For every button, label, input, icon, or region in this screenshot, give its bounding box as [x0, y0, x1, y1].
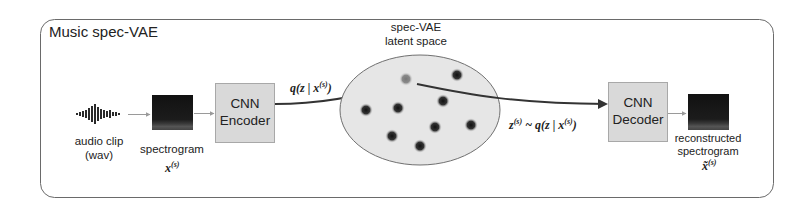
latent-point: [464, 118, 478, 132]
cnn-encoder-label-line2: Encoder: [220, 113, 271, 128]
cnn-decoder-label-line2: Decoder: [612, 112, 664, 127]
audio-clip-format-label: (wav): [85, 149, 113, 161]
diagram-title: Music spec-VAE: [49, 23, 158, 40]
music-spec-vae-diagram: Music spec-VAE audio clip (wav) spectrog…: [0, 0, 808, 208]
latent-space-label-line1: spec-VAE: [391, 21, 442, 33]
reconstructed-spectrogram-image: [688, 94, 729, 130]
cnn-encoder-label-line1: CNN: [230, 96, 259, 111]
latent-point: [413, 139, 427, 153]
latent-point: [359, 103, 373, 117]
latent-point: [391, 101, 405, 115]
latent-space-label-line2: latent space: [385, 35, 447, 47]
audio-clip-label: audio clip: [75, 135, 124, 147]
reconstructed-label-line2: spectrogram: [677, 145, 738, 157]
latent-point: [428, 120, 442, 134]
cnn-decoder-label-line1: CNN: [623, 95, 652, 110]
latent-point: [450, 68, 464, 82]
latent-point-encoded: [399, 72, 413, 86]
latent-point: [385, 129, 399, 143]
spectrogram-image: [152, 95, 193, 130]
spectrogram-label: spectrogram: [140, 143, 204, 155]
reconstructed-label-line1: reconstructed: [675, 132, 742, 144]
latent-point: [436, 94, 450, 108]
